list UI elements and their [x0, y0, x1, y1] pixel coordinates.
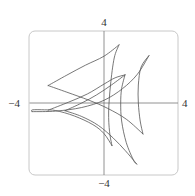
- curve-group: [32, 45, 149, 164]
- curve-segment-top-connector: [48, 75, 125, 110]
- x-min-tick-label: −4: [8, 97, 20, 109]
- x-max-tick-label: 4: [182, 97, 188, 109]
- curve-segment-left-upper-arc: [48, 45, 119, 86]
- parametric-curve-chart: 4 −4 −4 4: [0, 0, 195, 196]
- y-min-tick-label: −4: [98, 177, 110, 189]
- curve-segment-right-vertical: [138, 56, 149, 134]
- y-max-tick-label: 4: [101, 16, 107, 28]
- curve-segment-inner-cusp-arc: [65, 75, 125, 111]
- curve-segment-left-loop: [32, 110, 112, 146]
